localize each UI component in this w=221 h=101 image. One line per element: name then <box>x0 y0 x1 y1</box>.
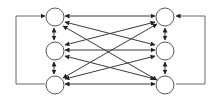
node-R2 <box>156 42 174 60</box>
edge-L1-R3 <box>63 26 157 80</box>
node-R1 <box>156 8 174 26</box>
node-L1 <box>46 8 64 26</box>
node-R3 <box>156 76 174 94</box>
network-diagram <box>0 0 221 101</box>
right-feedback-loop <box>176 16 205 84</box>
left-feedback-loop <box>16 16 45 84</box>
cross-edges <box>63 16 157 84</box>
edge-L3-R1 <box>63 24 157 78</box>
node-L2 <box>46 42 64 60</box>
node-L3 <box>46 76 64 94</box>
